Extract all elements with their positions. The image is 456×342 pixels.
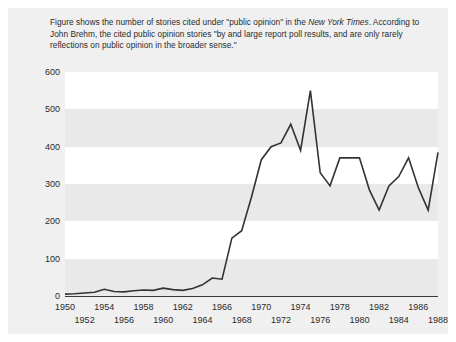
x-axis-tick-label: 1956 <box>114 315 134 325</box>
x-axis-tick-label: 1986 <box>408 302 428 312</box>
x-axis-baseline <box>65 296 438 297</box>
line-chart-svg <box>65 72 438 296</box>
x-axis-tick-label: 1964 <box>192 315 212 325</box>
figure-panel: Figure shows the number of stories cited… <box>8 8 448 334</box>
x-axis-tick-label: 1950 <box>55 302 75 312</box>
figure-caption: Figure shows the number of stories cited… <box>50 17 435 52</box>
y-axis-tick-label: 0 <box>20 291 60 301</box>
x-axis-tick-label: 1980 <box>349 315 369 325</box>
x-axis-labels: 1950195419581962196619701974197819821986… <box>65 300 438 332</box>
caption-line1-part-a: Figure shows the number of stories cited… <box>50 17 308 27</box>
x-axis-tick-label: 1958 <box>134 302 154 312</box>
x-axis-tick-label: 1970 <box>251 302 271 312</box>
plot-area <box>65 72 438 296</box>
x-axis-tick-label: 1982 <box>369 302 389 312</box>
x-axis-tick-label: 1954 <box>94 302 114 312</box>
x-axis-tick-label: 1976 <box>310 315 330 325</box>
x-axis-tick-label: 1978 <box>330 302 350 312</box>
x-axis-tick-label: 1962 <box>173 302 193 312</box>
x-axis-tick-label: 1974 <box>291 302 311 312</box>
y-axis-tick-label: 100 <box>20 254 60 264</box>
caption-publication-name: New York Times <box>308 17 368 27</box>
caption-line1-part-b: . <box>369 17 371 27</box>
x-axis-tick-label: 1952 <box>75 315 95 325</box>
x-axis-tick-label: 1966 <box>212 302 232 312</box>
x-axis-tick-label: 1988 <box>428 315 448 325</box>
y-axis-tick-label: 200 <box>20 216 60 226</box>
y-axis-tick-label: 500 <box>20 104 60 114</box>
x-axis-tick-label: 1972 <box>271 315 291 325</box>
data-series-line <box>65 91 438 294</box>
x-axis-tick-label: 1968 <box>232 315 252 325</box>
y-axis-tick-label: 400 <box>20 142 60 152</box>
y-axis: 0100200300400500600 <box>16 72 60 296</box>
y-axis-tick-label: 300 <box>20 179 60 189</box>
x-axis-tick-label: 1984 <box>389 315 409 325</box>
y-axis-tick-label: 600 <box>20 67 60 77</box>
x-axis-tick-label: 1960 <box>153 315 173 325</box>
